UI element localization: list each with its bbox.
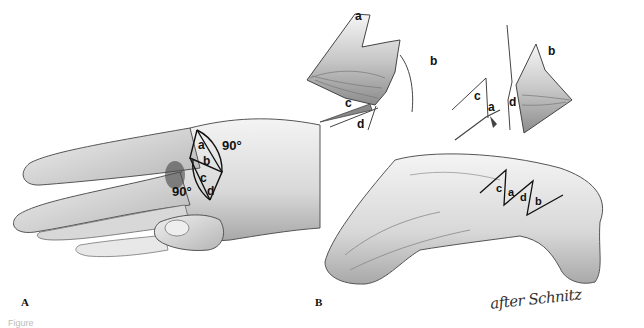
flap-label-a: a: [198, 138, 205, 152]
flap-label-b: b: [430, 54, 437, 68]
flap-label-c: c: [474, 89, 481, 103]
angle-label-upper: 90°: [222, 138, 242, 153]
flap-label-b: b: [203, 154, 210, 168]
flap-label-d: d: [520, 191, 527, 203]
flap-label-d: d: [207, 184, 214, 198]
flap-label-a: a: [508, 186, 515, 198]
flap-label-c: c: [200, 171, 207, 185]
panel-a-hand-drawing: [13, 119, 320, 257]
panel-label-b: B: [315, 296, 322, 308]
flap-label-b: b: [548, 44, 555, 58]
panel-b-flaps-elevated: [307, 14, 413, 130]
panel-b-hand-drawing: [325, 154, 603, 284]
flap-label-a: a: [355, 9, 362, 23]
flap-label-d: d: [509, 95, 516, 109]
flap-label-a: a: [488, 100, 495, 114]
flap-label-c: c: [345, 96, 352, 110]
flap-label-c: c: [496, 182, 502, 194]
panel-b-flaps-transposed: [452, 25, 572, 140]
panel-label-a: A: [21, 296, 29, 308]
flap-label-b: b: [535, 195, 542, 207]
angle-label-lower: 90°: [172, 184, 192, 199]
flap-label-d: d: [357, 117, 364, 131]
figure-caption-partial: Figure: [8, 318, 34, 328]
